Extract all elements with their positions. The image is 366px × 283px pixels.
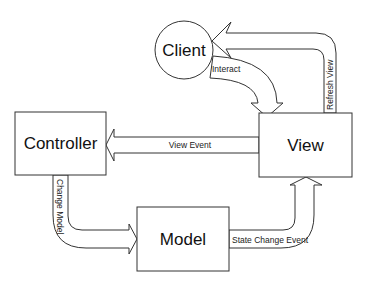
change-model-label: Change Model (55, 179, 65, 234)
model-label: Model (160, 230, 206, 249)
interact-label: Interact (212, 64, 241, 74)
state-change-event-arrow: State Change Event (229, 177, 322, 248)
model-node: Model (137, 207, 229, 271)
mvc-diagram: Refresh View Interact Client View Event … (0, 0, 366, 283)
view-event-arrow: View Event (106, 129, 259, 161)
state-change-event-label: State Change Event (232, 235, 309, 245)
change-model-arrow: Change Model (53, 175, 137, 254)
view-node: View (259, 113, 352, 177)
refresh-view-label: Refresh View (325, 59, 335, 110)
controller-node: Controller (15, 112, 106, 175)
interact-arrow: Interact (210, 56, 283, 117)
controller-label: Controller (24, 134, 98, 153)
view-event-label: View Event (169, 140, 212, 150)
client-label: Client (162, 41, 206, 60)
view-label: View (287, 136, 324, 155)
client-node: Client (155, 21, 213, 79)
